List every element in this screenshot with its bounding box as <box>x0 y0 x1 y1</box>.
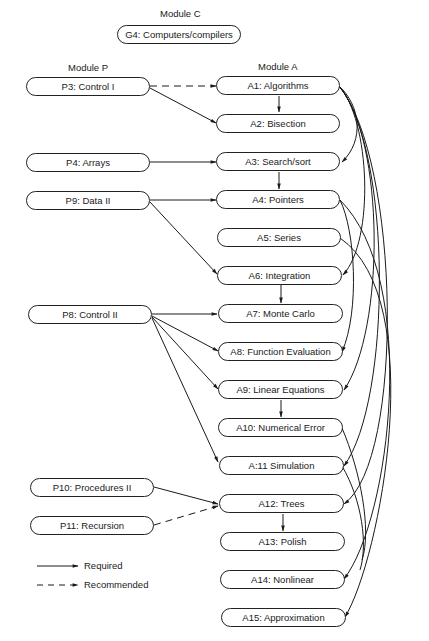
node-p9[interactable]: P9: Data II <box>26 191 150 210</box>
node-p10[interactable]: P10: Procedures II <box>30 478 154 497</box>
edge-a4-a8 <box>340 200 354 352</box>
edge-p10-a12 <box>154 487 218 504</box>
node-a10[interactable]: A10: Numerical Error <box>218 418 343 437</box>
edge-p8-a9 <box>152 317 218 389</box>
node-a6[interactable]: A6: Integration <box>217 266 342 285</box>
node-a8[interactable]: A8: Function Evaluation <box>218 342 343 361</box>
edge-p8-a8 <box>152 316 218 351</box>
node-p3[interactable]: P3: Control I <box>26 77 150 96</box>
module-c-title: Module C <box>160 8 201 19</box>
module-p-title: Module P <box>68 62 108 73</box>
legend-required-label: Required <box>84 560 123 571</box>
node-a11[interactable]: A:11 Simulation <box>219 456 344 475</box>
node-a12[interactable]: A12: Trees <box>219 494 344 513</box>
edge-p8-a11 <box>152 318 218 462</box>
node-a5[interactable]: A5: Series <box>217 228 341 247</box>
node-a14[interactable]: A14: Nonlinear <box>220 570 345 589</box>
node-a2[interactable]: A2: Bisection <box>216 114 340 133</box>
node-a3[interactable]: A3: Search/sort <box>216 152 340 171</box>
edge-p9-a6 <box>150 202 217 274</box>
node-a9[interactable]: A9: Linear Equations <box>218 380 343 399</box>
node-a1[interactable]: A1: Algorithms <box>216 76 340 95</box>
legend-recommended-label: Recommended <box>84 579 148 590</box>
edge-p11-a12 <box>154 506 218 525</box>
edge-a11-continuation <box>342 466 363 570</box>
node-a7[interactable]: A7: Monte Carlo <box>218 304 343 323</box>
node-p4[interactable]: P4: Arrays <box>26 153 150 172</box>
node-p8[interactable]: P8: Control II <box>28 305 152 324</box>
module-a-title: Module A <box>258 61 298 72</box>
node-g4[interactable]: G4: Computers/compilers <box>117 25 241 44</box>
node-a13[interactable]: A13: Polish <box>220 532 345 551</box>
edge-a1-a12 <box>339 86 387 504</box>
node-a4[interactable]: A4: Pointers <box>216 190 340 209</box>
node-a15[interactable]: A15: Approximation <box>221 608 346 627</box>
edge-a1-a3 <box>339 86 357 162</box>
node-p11[interactable]: P11: Recursion <box>30 516 154 535</box>
edge-p3-a2 <box>150 88 216 123</box>
